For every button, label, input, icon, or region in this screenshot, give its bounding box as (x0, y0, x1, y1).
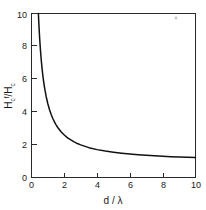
y-axis-title-H2: H (3, 86, 14, 93)
chart-figure: 0 2 4 6 8 10 0 2 4 6 8 10 d / λ Hcf/Hc (0, 0, 206, 210)
x-tick-label-4: 8 (161, 180, 166, 190)
y-tick-label-2: 4 (22, 107, 27, 117)
x-tick-label-0: 0 (29, 180, 34, 190)
x-tick-label-2: 4 (95, 180, 100, 190)
y-axis-title-H1: H (3, 102, 14, 109)
x-tick-label-1: 2 (62, 180, 67, 190)
image-speck-artifact (175, 17, 178, 20)
y-tick-label-3: 6 (22, 74, 27, 84)
x-axis-title: d / λ (104, 195, 123, 206)
figure-background (0, 0, 206, 210)
chart-canvas: 0 2 4 6 8 10 0 2 4 6 8 10 d / λ Hcf/Hc (0, 0, 206, 210)
y-tick-label-4: 8 (22, 41, 27, 51)
y-tick-label-5: 10 (17, 10, 27, 20)
x-tick-label-3: 6 (128, 180, 133, 190)
y-tick-label-1: 2 (22, 140, 27, 150)
x-tick-label-5: 10 (191, 180, 201, 190)
y-tick-label-0: 0 (22, 173, 27, 183)
